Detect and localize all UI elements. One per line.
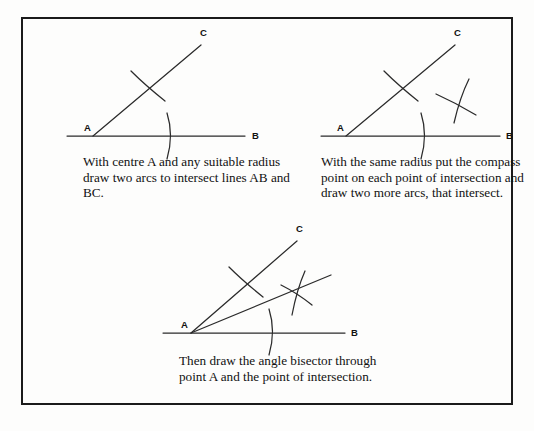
label-c: C: [200, 27, 207, 38]
arc-from-ac-point: [436, 94, 476, 115]
caption-step-1: With centre A and any suitable radius dr…: [83, 154, 298, 201]
panel-step-3: A B C Then draw the angle bisector throu…: [145, 223, 405, 403]
arc-from-ab-point: [454, 79, 469, 123]
panel-step-2: A B C With the same radius put the compa…: [305, 23, 515, 238]
label-b: B: [252, 130, 259, 141]
label-b: B: [506, 130, 513, 141]
arc-on-ac: [384, 71, 418, 101]
label-a: A: [181, 319, 188, 330]
label-a: A: [84, 122, 91, 133]
arc-from-ab-point: [292, 271, 305, 315]
ray-ac: [93, 45, 201, 136]
arc-on-ab: [269, 309, 273, 355]
ray-ac: [346, 45, 455, 136]
label-c: C: [296, 223, 303, 234]
diagram-step-3: A B C: [145, 223, 405, 351]
figure-frame: A B C With centre A and any suitable rad…: [21, 17, 513, 405]
label-a: A: [337, 122, 344, 133]
diagram-step-2: A B C: [305, 23, 515, 153]
label-b: B: [351, 327, 358, 338]
arc-on-ac: [229, 267, 263, 297]
ray-ac: [191, 241, 297, 333]
panel-step-1: A B C With centre A and any suitable rad…: [47, 23, 287, 223]
diagram-step-1: A B C: [47, 23, 287, 153]
label-c: C: [454, 27, 461, 38]
caption-step-2: With the same radius put the compass poi…: [321, 154, 526, 201]
caption-step-3: Then draw the angle bisector through poi…: [179, 353, 394, 384]
arc-on-ac: [131, 71, 165, 101]
